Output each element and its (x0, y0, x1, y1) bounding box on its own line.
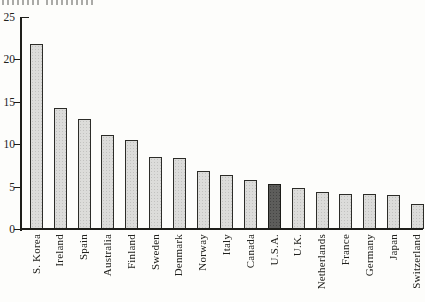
x-tick-label-denmark: Denmark (172, 234, 184, 276)
x-tick-label-sweden: Sweden (149, 234, 161, 270)
y-tick-label-15: 15 (0, 95, 15, 109)
bar-germany (363, 194, 376, 229)
x-tick-label-spain: Spain (77, 234, 89, 260)
x-tick-label-switzerland: Switzerland (410, 234, 422, 289)
x-tick-label-finland: Finland (125, 234, 137, 269)
y-tick-label-10: 10 (0, 137, 15, 151)
x-tick-label-germany: Germany (363, 234, 375, 276)
x-tick-label-u-k: U.K. (291, 234, 303, 256)
bar-italy (220, 175, 233, 229)
x-tick-label-france: France (339, 234, 351, 265)
bar-spain (78, 119, 91, 229)
bar-u-s-a (268, 184, 281, 229)
bar-sweden (149, 157, 162, 229)
y-tick-label-25: 25 (0, 10, 15, 24)
bar-netherlands (316, 192, 329, 229)
bar-s-korea (30, 44, 43, 229)
x-tick-label-netherlands: Netherlands (315, 234, 327, 289)
bar-ireland (54, 108, 67, 229)
x-tick-label-ireland: Ireland (53, 234, 65, 267)
bar-australia (101, 135, 114, 229)
bar-norway (197, 171, 210, 229)
x-axis-line (20, 228, 423, 230)
bar-finland (125, 140, 138, 229)
x-tick-label-s-korea: S. Korea (30, 234, 42, 274)
bar-japan (387, 195, 400, 229)
y-tick-label-20: 20 (0, 52, 15, 66)
x-tick-label-japan: Japan (387, 234, 399, 260)
clipped-text-fragment (46, 0, 95, 5)
bar-canada (244, 180, 257, 229)
y-axis-line (20, 17, 22, 231)
bar-france (339, 194, 352, 229)
bar-chart-figure: S. KoreaIrelandSpainAustraliaFinlandSwed… (0, 0, 425, 302)
x-tick-label-norway: Norway (196, 234, 208, 271)
bar-u-k (292, 188, 305, 229)
clipped-text-fragment (2, 0, 39, 5)
bar-switzerland (411, 204, 424, 229)
x-tick-label-canada: Canada (244, 234, 256, 268)
x-tick-label-australia: Australia (101, 234, 113, 276)
y-tick-label-0: 0 (0, 222, 15, 236)
bar-denmark (173, 158, 186, 229)
x-tick-label-italy: Italy (220, 234, 232, 255)
x-tick-label-u-s-a: U.S.A. (268, 234, 280, 265)
y-tick-label-5: 5 (0, 180, 15, 194)
